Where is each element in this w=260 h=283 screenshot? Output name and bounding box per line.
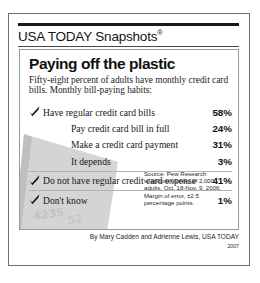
- row-label: It depends: [71, 156, 111, 167]
- check-icon: [29, 106, 40, 117]
- row-value: 3%: [218, 156, 232, 167]
- byline: By Mary Cadden and Adrienne Lewis, USA T…: [19, 233, 239, 240]
- brand-title: USA TODAY Snapshots®: [18, 28, 243, 44]
- brand-underline: [18, 46, 239, 47]
- row-value: 31%: [212, 139, 232, 150]
- row-label: Make a credit card payment: [71, 139, 178, 150]
- row-value: 58%: [212, 107, 232, 118]
- brand-name: USA TODAY Snapshots: [18, 29, 157, 44]
- data-row: Make a credit card payment 31%: [29, 137, 232, 153]
- usa-today-snapshot-figure: USA TODAY Snapshots® 4235 52 Paying off …: [8, 13, 250, 266]
- chart-container: 4235 52 Paying off the plastic Fifty-eig…: [19, 49, 239, 230]
- svg-text:4235: 4235: [33, 206, 65, 223]
- data-row: Pay credit card bill in full 24%: [29, 120, 232, 136]
- row-label: Have regular credit card bills: [43, 107, 155, 118]
- check-icon: [29, 175, 40, 186]
- row-label: Pay credit card bill in full: [71, 123, 169, 134]
- row-value: 24%: [212, 123, 232, 134]
- row-label: Don't know: [43, 195, 88, 206]
- svg-text:52: 52: [67, 212, 84, 227]
- chart-subtitle: Fifty-eight percent of adults have month…: [29, 75, 232, 96]
- registered-mark-icon: ®: [157, 28, 162, 37]
- source-note: Source: Pew Research telephone survey of…: [144, 170, 230, 206]
- chart-headline: Paying off the plastic: [29, 55, 175, 73]
- data-row: It depends 3%: [29, 153, 232, 169]
- copyright-year: 2007: [19, 243, 239, 249]
- check-icon: [29, 194, 40, 205]
- top-rule: [18, 23, 239, 26]
- data-row: Have regular credit card bills 58%: [29, 104, 232, 120]
